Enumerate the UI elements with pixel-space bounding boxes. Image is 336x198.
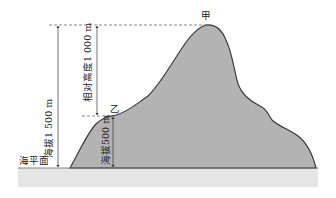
altitude-b-label: 海拔500 m	[101, 115, 111, 165]
altitude-a-label: 海拔1 500 m	[44, 99, 54, 158]
diagram: 甲 乙 海平面 海拔1 500 m 相对高度1 000 m 海拔500 m	[0, 0, 336, 198]
peak-a-label: 甲	[201, 11, 211, 21]
point-b-label: 乙	[110, 104, 120, 114]
ground-band	[18, 168, 318, 187]
relative-height-label: 相对高度1 000 m	[83, 23, 93, 102]
